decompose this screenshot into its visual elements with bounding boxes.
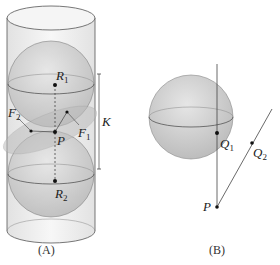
cylinder-top (7, 6, 95, 30)
svg-text:P: P (202, 199, 211, 214)
svg-text:P: P (56, 133, 65, 148)
panel-a: R1 R2 F2 F1 P K (A) (0, 6, 112, 257)
svg-text:Q2: Q2 (253, 145, 267, 162)
caption-b: (B) (209, 243, 225, 257)
dandelin-spheres-diagram: R1 R2 F2 F1 P K (A) Q1 Q2 P (B) (0, 0, 280, 265)
svg-text:K: K (101, 114, 112, 129)
panel-b: Q1 Q2 P (B) (149, 64, 272, 257)
caption-a: (A) (38, 243, 55, 257)
svg-text:Q1: Q1 (220, 136, 234, 153)
